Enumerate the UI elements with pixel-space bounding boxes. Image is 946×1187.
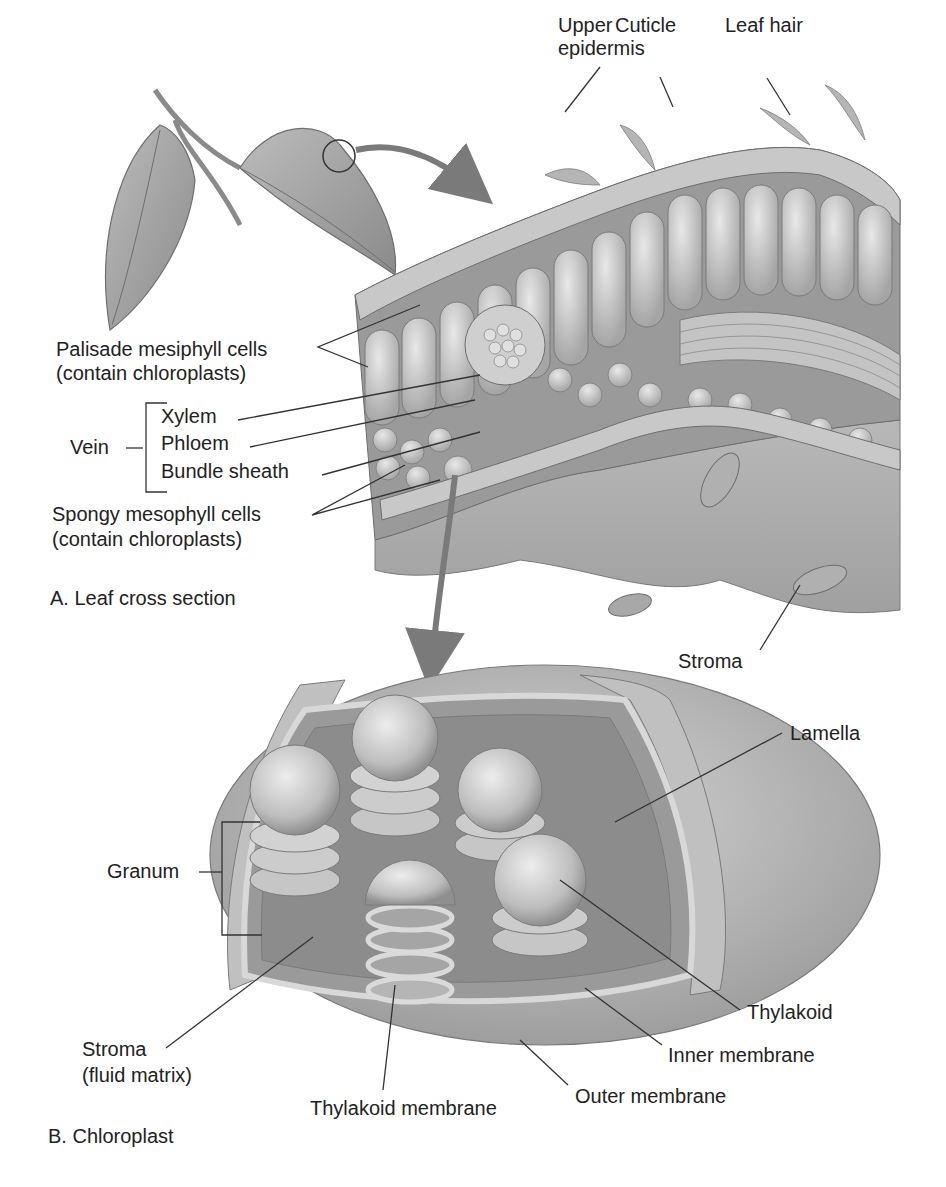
panel-a-caption: A. Leaf cross section xyxy=(50,587,236,609)
label-phloem: Phloem xyxy=(161,432,229,454)
label-inner-membrane: Inner membrane xyxy=(668,1044,815,1066)
label-spongy-line2: (contain chloroplasts) xyxy=(52,528,242,550)
label-palisade-line2: (contain chloroplasts) xyxy=(56,362,246,384)
label-stroma-fluid-line2: (fluid matrix) xyxy=(82,1064,192,1086)
chloroplast-illustration xyxy=(210,665,880,1045)
label-lamella: Lamella xyxy=(790,722,861,744)
label-thylakoid: Thylakoid xyxy=(747,1001,833,1023)
label-spongy-line1: Spongy mesophyll cells xyxy=(52,503,261,525)
label-upper-epidermis-line2: epidermis xyxy=(558,37,645,59)
label-leaf-hair: Leaf hair xyxy=(725,14,803,36)
label-stroma-fluid-line1: Stroma xyxy=(82,1038,147,1060)
label-vein: Vein xyxy=(70,436,109,458)
label-bundle-sheath: Bundle sheath xyxy=(161,460,289,482)
label-granum: Granum xyxy=(107,860,179,882)
label-outer-membrane: Outer membrane xyxy=(575,1085,726,1107)
label-palisade-line1: Palisade mesiphyll cells xyxy=(56,338,267,360)
curved-arrow-icon xyxy=(356,147,470,185)
leaf-left xyxy=(106,125,195,330)
label-xylem: Xylem xyxy=(161,405,217,427)
label-cuticle: Cuticle xyxy=(615,14,676,36)
panel-b-caption: B. Chloroplast xyxy=(48,1125,174,1147)
label-thylakoid-membrane: Thylakoid membrane xyxy=(310,1097,497,1119)
leaf-cross-section-illustration xyxy=(355,85,900,660)
label-upper-epidermis-line1: Upper xyxy=(558,14,613,36)
leaf-chloroplast-diagram: Upper epidermis Cuticle Leaf hair Palisa… xyxy=(0,0,946,1187)
label-stroma-leaf: Stroma xyxy=(678,650,743,672)
